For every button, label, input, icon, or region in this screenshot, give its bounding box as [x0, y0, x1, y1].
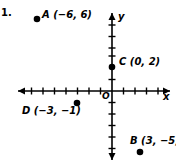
y-axis-arrow-down: [109, 153, 116, 160]
y-axis-label: y: [118, 12, 125, 22]
x-axis-arrow-left: [18, 88, 25, 95]
origin-label: O: [102, 92, 110, 101]
point-label-c: C (0, 2): [119, 57, 160, 67]
point-dot-a: [34, 16, 41, 23]
point-label-b: B (3, −5): [130, 136, 176, 146]
y-axis-arrow-up: [109, 13, 116, 20]
problem-number: 1.: [1, 8, 12, 18]
x-axis-group: [18, 88, 170, 95]
point-label-d: D (−3, −1): [22, 106, 81, 116]
point-dot-c: [109, 64, 116, 71]
point-label-a: A (−6, 6): [42, 10, 92, 20]
plotted-points-group: [34, 16, 144, 156]
point-dot-b: [137, 149, 144, 156]
coordinate-plane-figure: 1. A (−6, 6) C (0, 2) D (−3, −1) B (3, −…: [0, 0, 176, 165]
x-axis-label: x: [163, 92, 169, 102]
y-axis-group: [109, 13, 116, 160]
